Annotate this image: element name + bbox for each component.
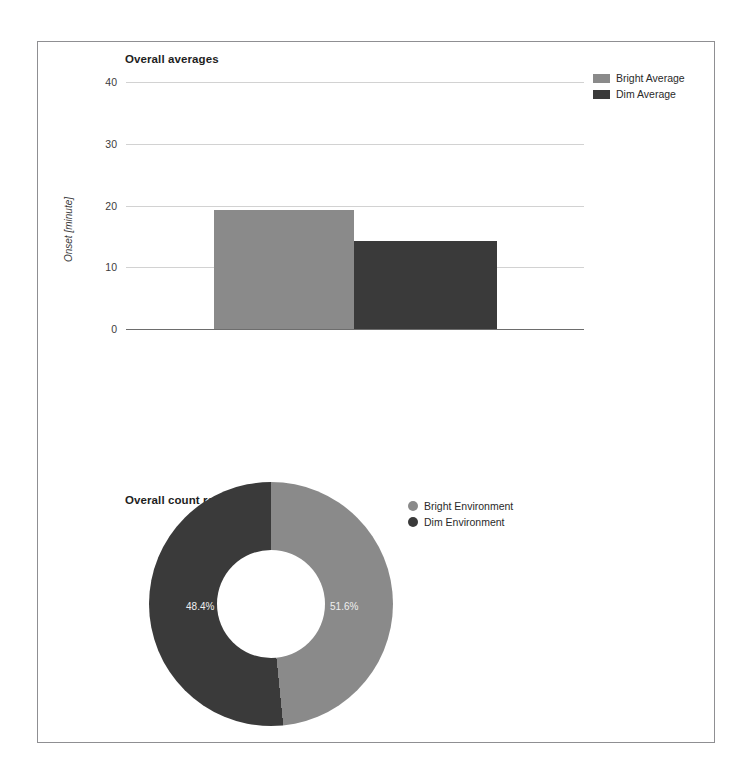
bar-bright-average: [214, 210, 354, 329]
donut-chart-plot-area: 48.4% 51.6%: [149, 482, 393, 726]
donut-legend-label: Dim Environment: [424, 516, 505, 528]
bar-legend-item[interactable]: Bright Average: [593, 72, 685, 84]
donut-chart-legend: Bright EnvironmentDim Environment: [408, 500, 513, 532]
bar-chart-title: Overall averages: [125, 53, 219, 65]
bar-legend-item[interactable]: Dim Average: [593, 88, 685, 100]
donut-slice-label-dim: 51.6%: [330, 601, 358, 612]
donut-slice-label-bright: 48.4%: [186, 601, 214, 612]
donut-chart: Overall count ratio 48.4% 51.6% Bright E…: [38, 402, 716, 744]
gridline: [126, 82, 584, 83]
bar-chart-y-axis-title: Onset [minute]: [63, 197, 74, 262]
y-tick-label: 10: [105, 261, 117, 273]
gridline: [126, 144, 584, 145]
bar-legend-label: Dim Average: [616, 88, 676, 100]
gridline: [126, 206, 584, 207]
donut-legend-item[interactable]: Bright Environment: [408, 500, 513, 512]
x-axis-baseline: [126, 329, 584, 330]
y-tick-label: 40: [105, 76, 117, 88]
y-tick-label: 20: [105, 200, 117, 212]
scanned-page-frame: Overall averages Onset [minute] 01020304…: [37, 41, 715, 743]
bar-chart: Overall averages Onset [minute] 01020304…: [38, 42, 716, 402]
bar-legend-label: Bright Average: [616, 72, 685, 84]
bar-dim-average: [354, 241, 497, 329]
bar-chart-legend: Bright AverageDim Average: [593, 72, 685, 104]
donut-legend-swatch-icon: [408, 501, 418, 511]
donut-legend-swatch-icon: [408, 517, 418, 527]
bar-chart-plot-area: 010203040: [126, 82, 584, 329]
y-tick-label: 30: [105, 138, 117, 150]
bar-legend-swatch-icon: [593, 90, 610, 99]
donut-legend-label: Bright Environment: [424, 500, 513, 512]
donut-hole: [217, 550, 325, 658]
donut-legend-item[interactable]: Dim Environment: [408, 516, 513, 528]
y-tick-label: 0: [111, 323, 117, 335]
bar-legend-swatch-icon: [593, 74, 610, 83]
